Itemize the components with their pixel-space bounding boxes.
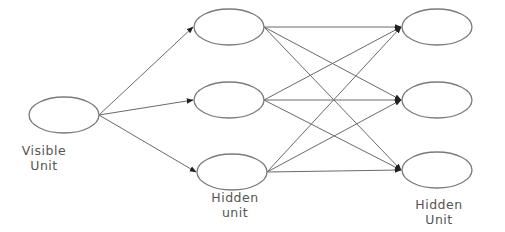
edge-h3-o3 (267, 170, 401, 172)
node-h1 (194, 9, 264, 45)
edge-h3-o2 (267, 100, 401, 172)
edge-v1-h3 (99, 115, 196, 172)
hidden-unit-2-label-line2: Unit (406, 212, 472, 227)
node-h3 (197, 154, 267, 190)
hidden-unit-1-label: Hidden unit (202, 190, 268, 220)
visible-unit-label-line2: Unit (14, 158, 74, 173)
visible-unit-label: Visible Unit (14, 143, 74, 173)
neural-network-diagram: Visible Unit Hidden unit Hidden Unit (0, 0, 505, 232)
hidden-unit-1-label-line2: unit (202, 205, 268, 220)
hidden-unit-2-label-line1: Hidden (406, 197, 472, 212)
edge-h1-o3 (264, 27, 401, 170)
node-o3 (402, 152, 472, 188)
node-o1 (402, 9, 472, 45)
visible-unit-label-line1: Visible (14, 143, 74, 158)
hidden-unit-2-label: Hidden Unit (406, 197, 472, 227)
node-h2 (194, 82, 264, 118)
node-o2 (402, 82, 472, 118)
nodes-group (29, 9, 472, 190)
hidden-unit-1-label-line1: Hidden (202, 190, 268, 205)
node-v1 (29, 97, 99, 133)
